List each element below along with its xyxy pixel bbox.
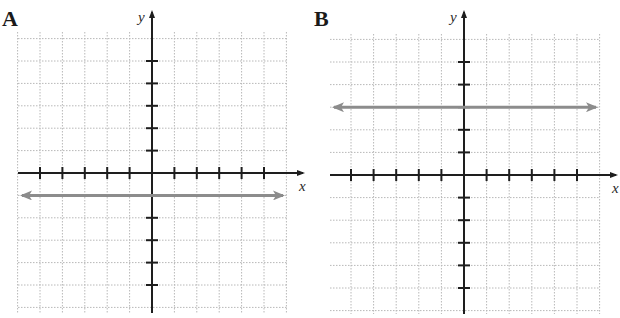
graph-panel-b: B xy — [310, 0, 620, 318]
y-axis-label: y — [136, 9, 145, 25]
coordinate-plane-a: xy — [0, 0, 310, 318]
graph-panel-a: A xy — [0, 0, 310, 318]
axes — [18, 12, 303, 313]
axes — [330, 12, 616, 314]
y-axis-label: y — [448, 9, 457, 25]
coordinate-plane-b: xy — [310, 0, 620, 318]
x-axis-label: x — [611, 180, 619, 196]
x-axis-label: x — [298, 178, 306, 194]
